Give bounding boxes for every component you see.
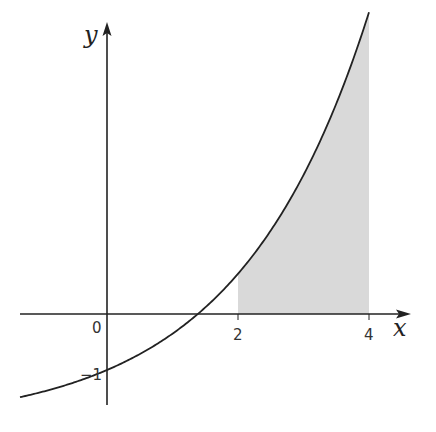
tick-label-neg1: −1 (80, 366, 102, 384)
tick-label-4: 4 (364, 326, 374, 344)
shaded-region (238, 12, 369, 314)
origin-label: 0 (92, 319, 102, 337)
graph: 0 2 4 −1 x y (0, 0, 436, 432)
tick-label-2: 2 (233, 326, 243, 344)
y-axis-label: y (83, 21, 98, 49)
x-axis-label: x (393, 314, 407, 342)
